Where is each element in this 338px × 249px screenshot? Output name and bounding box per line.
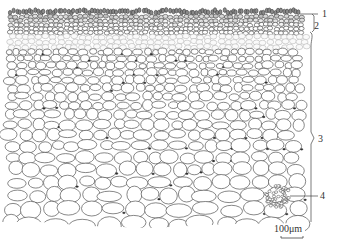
parenchyma-cell [189, 69, 199, 77]
vascular-cell [269, 204, 272, 207]
epidermis-cell [8, 10, 11, 15]
parenchyma-cell [75, 151, 94, 164]
parenchyma-cell [263, 84, 274, 90]
parenchyma-cell [131, 141, 149, 150]
parenchyma-cell [190, 101, 204, 109]
vascular-cell [287, 189, 290, 192]
epidermis-cell [240, 9, 243, 14]
transition-cell [238, 39, 245, 44]
parenchyma-cell [8, 69, 17, 77]
subepidermal-cell [48, 14, 53, 18]
parenchyma-cell [60, 102, 69, 110]
subepidermal-cell [28, 18, 33, 22]
subepidermal-cell [213, 14, 218, 18]
intercellular-space [55, 107, 58, 109]
parenchyma-cell [80, 101, 91, 110]
parenchyma-cell [206, 63, 215, 68]
parenchyma-cell [136, 83, 145, 91]
transition-cell [225, 34, 232, 39]
parenchyma-cell [220, 56, 228, 61]
parenchyma-cell [229, 94, 239, 101]
parenchyma-cell [275, 61, 284, 68]
parenchyma-cell [241, 101, 256, 111]
subepidermal-cell [194, 27, 199, 31]
parenchyma-cell [3, 121, 17, 129]
transition-cell [177, 39, 184, 44]
epidermis-cell [18, 10, 21, 15]
parenchyma-cell [199, 63, 206, 70]
transition-cell [282, 39, 289, 44]
parenchyma-cell [213, 162, 232, 175]
parenchyma-cell [33, 118, 45, 130]
parenchyma-cell [172, 94, 186, 102]
parenchyma-cell [22, 163, 40, 178]
parenchyma-cell [275, 85, 285, 93]
subepidermal-cell [153, 27, 158, 31]
parenchyma-cell [277, 76, 288, 85]
subepidermal-cell [59, 27, 64, 31]
parenchyma-cell [20, 201, 40, 219]
transition-cell [22, 39, 29, 44]
parenchyma-cell [240, 110, 251, 121]
subepidermal-cell [104, 31, 109, 35]
parenchyma-cell [8, 85, 18, 93]
subepidermal-cell [103, 14, 108, 18]
parenchyma-cell [296, 100, 307, 110]
subepidermal-cell [158, 31, 163, 35]
subepidermal-cell [169, 19, 174, 23]
intercellular-space [245, 137, 248, 139]
parenchyma-cell [247, 129, 262, 139]
subepidermal-cell [164, 31, 169, 35]
parenchyma-cell [47, 186, 62, 201]
subepidermal-cell [53, 15, 58, 19]
parenchyma-cell [160, 150, 178, 164]
parenchyma-cell [159, 69, 168, 75]
subepidermal-cell [168, 27, 173, 31]
parenchyma-cell [66, 83, 78, 92]
parenchyma-cell [278, 48, 288, 55]
parenchyma-cell [136, 161, 153, 176]
parenchyma-cell [111, 176, 128, 187]
subepidermal-cell [78, 22, 83, 26]
parenchyma-cell [240, 92, 250, 99]
parenchyma-cell [200, 130, 215, 140]
epidermis-cell [169, 8, 172, 13]
subepidermal-cell [34, 18, 39, 22]
subepidermal-cell [163, 23, 168, 27]
parenchyma-cell [175, 85, 187, 92]
parenchyma-cell [89, 94, 101, 100]
intercellular-space [300, 148, 303, 150]
parenchyma-cell [155, 84, 165, 91]
parenchyma-cell [112, 142, 131, 151]
transition-cell [162, 35, 169, 40]
subepidermal-cell [7, 30, 12, 34]
parenchyma-cell [99, 61, 106, 68]
parenchyma-cell [9, 161, 23, 174]
parenchyma-cell [6, 50, 12, 55]
subepidermal-cell [178, 18, 183, 22]
parenchyma-cell [125, 75, 134, 84]
epidermis-cell [114, 10, 117, 15]
subepidermal-cell [143, 15, 148, 19]
parenchyma-cell [65, 109, 75, 120]
intercellular-space [265, 82, 268, 84]
transition-cell [169, 45, 176, 50]
parenchyma-cell [76, 120, 93, 131]
parenchyma-cell [102, 203, 124, 214]
parenchyma-cell [39, 69, 51, 75]
parenchyma-cell [133, 130, 151, 141]
parenchyma-cell [255, 84, 264, 90]
parenchyma-cell [154, 131, 169, 140]
parenchyma-cell [270, 69, 281, 76]
parenchyma-cell [255, 56, 262, 62]
parenchyma-cell [8, 179, 26, 189]
subepidermal-cell [128, 15, 133, 19]
transition-cell [155, 35, 162, 40]
subepidermal-cell [239, 27, 244, 31]
parenchyma-cell [152, 101, 166, 108]
parenchyma-cell [106, 62, 115, 70]
parenchyma-cell [289, 76, 298, 83]
parenchyma-cell [169, 129, 186, 138]
subepidermal-cell [173, 23, 178, 27]
parenchyma-cell [77, 140, 96, 150]
